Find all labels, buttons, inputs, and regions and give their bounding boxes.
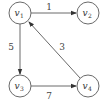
weight-v4-v1: 3 [59,42,65,52]
weight-v3-v4: 7 [46,91,52,101]
graph-diagram: 1 5 7 3 v 1 v 2 v 3 v 4 [0,0,107,104]
node-v4: v 4 [77,75,99,97]
node-v3: v 3 [9,75,31,97]
svg-text:3: 3 [20,85,24,92]
edge-v4-v1 [29,22,80,78]
svg-text:v: v [14,8,19,18]
svg-text:2: 2 [88,12,92,19]
svg-text:v: v [14,81,19,91]
svg-text:v: v [82,8,87,18]
svg-text:1: 1 [20,12,24,19]
weight-v1-v3: 5 [8,42,14,52]
node-v1: v 1 [9,2,31,24]
svg-text:v: v [82,81,87,91]
svg-text:4: 4 [88,85,92,92]
weight-v1-v2: 1 [46,2,52,12]
node-v2: v 2 [77,2,99,24]
